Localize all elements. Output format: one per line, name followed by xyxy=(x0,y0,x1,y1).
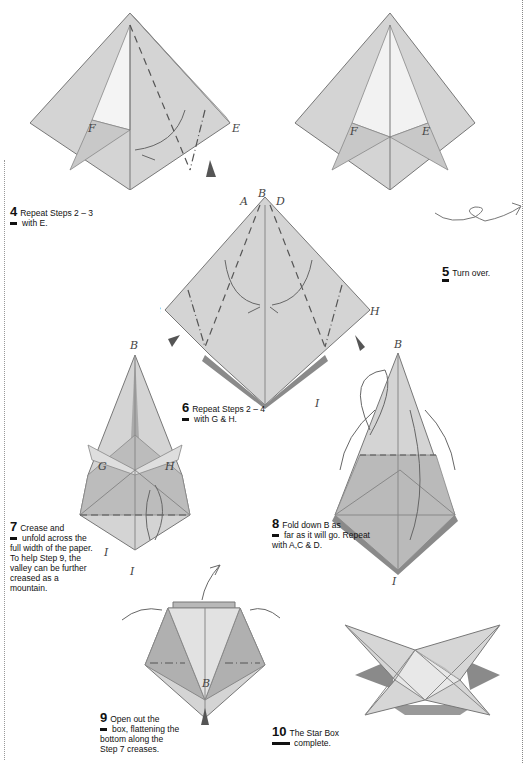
label-e: E xyxy=(421,125,430,138)
step-underline xyxy=(100,728,107,731)
label-i-step7: I xyxy=(104,548,108,558)
step-7-instruction: 7Crease and unfold across the full width… xyxy=(10,521,95,593)
label-h: H xyxy=(164,460,175,473)
label-b: B xyxy=(393,338,402,351)
step-underline xyxy=(272,742,290,745)
label-g: G xyxy=(98,460,107,473)
step-underline xyxy=(272,534,279,537)
turn-over-arrow-icon xyxy=(430,195,525,235)
step-10-instruction: 10The Star Box complete. xyxy=(272,726,352,748)
label-h: H xyxy=(369,305,380,318)
origami-instructions-page: F E F E A B D G H I xyxy=(0,0,531,763)
step-underline xyxy=(10,537,17,540)
label-d: D xyxy=(275,195,285,208)
step-9-instruction: 9Open out the box, flattening the bottom… xyxy=(100,712,182,754)
step-8-instruction: 8Fold down B as far as it will go. Repea… xyxy=(272,518,372,550)
label-f: F xyxy=(87,122,96,135)
diagram-step-9: I B xyxy=(110,560,280,725)
label-e: E xyxy=(231,122,240,135)
step-6-instruction: 6Repeat Steps 2 – 4 with G & H. xyxy=(182,402,292,424)
label-a: A xyxy=(239,195,248,208)
label-i-top: I xyxy=(129,565,135,578)
diagram-step-10-star-box xyxy=(335,590,515,720)
step-4-instruction: 4Repeat Steps 2 – 3 with E. xyxy=(10,206,120,228)
label-f: F xyxy=(349,125,358,138)
diagram-step-4-before: F E xyxy=(30,5,260,190)
step-5-instruction: 5Turn over. xyxy=(442,266,522,278)
label-g: G xyxy=(160,305,161,318)
label-b: B xyxy=(257,187,266,200)
step-underline xyxy=(442,279,449,282)
step-underline xyxy=(10,222,17,225)
right-margin-dotted-line xyxy=(522,0,523,763)
step-underline xyxy=(182,418,189,421)
label-b: B xyxy=(129,339,138,352)
label-i: I xyxy=(391,575,397,585)
left-margin-dotted-line xyxy=(4,160,5,760)
diagram-step-5-before: F E xyxy=(290,5,480,190)
label-b: B xyxy=(201,677,210,690)
